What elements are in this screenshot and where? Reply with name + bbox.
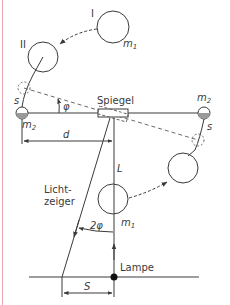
angle-phi-arc bbox=[58, 99, 59, 113]
label-lamp: Lampe bbox=[120, 262, 154, 273]
label-position-two: II bbox=[20, 39, 26, 50]
label-S: S bbox=[84, 281, 91, 292]
label-position-one: I bbox=[91, 8, 94, 19]
label-L: L bbox=[117, 163, 123, 174]
label-mirror: Spiegel bbox=[97, 95, 134, 106]
large-mass-bottom bbox=[98, 184, 128, 214]
label-d: d bbox=[63, 129, 70, 140]
diagram-frame: I II m1 s s m2 m2 φ Spiegel d L Licht- z… bbox=[0, 0, 230, 305]
label-phi: φ bbox=[63, 101, 70, 112]
label-s-left: s bbox=[14, 95, 19, 106]
label-mass-top: m1 bbox=[123, 38, 137, 51]
label-light-pointer-1: Licht- bbox=[44, 184, 72, 195]
torsion-balance-diagram: I II m1 s s m2 m2 φ Spiegel d L Licht- z… bbox=[0, 0, 230, 305]
movement-arc-bottom bbox=[129, 182, 167, 198]
label-s-right: s bbox=[207, 121, 212, 132]
label-mass-left: m2 bbox=[22, 119, 37, 132]
label-light-pointer-2: zeiger bbox=[44, 196, 76, 207]
large-mass-right-lower bbox=[168, 153, 198, 183]
label-two-phi: 2φ bbox=[90, 220, 103, 231]
arm-right bbox=[188, 119, 204, 156]
lamp-dot bbox=[111, 274, 118, 281]
mirror bbox=[98, 109, 128, 117]
reflected-arrow bbox=[74, 220, 79, 237]
small-mass-right-rotated bbox=[192, 134, 204, 146]
movement-arc-top bbox=[60, 29, 97, 44]
label-mass-bottom: m1 bbox=[121, 217, 135, 230]
label-mass-right: m2 bbox=[197, 92, 212, 105]
